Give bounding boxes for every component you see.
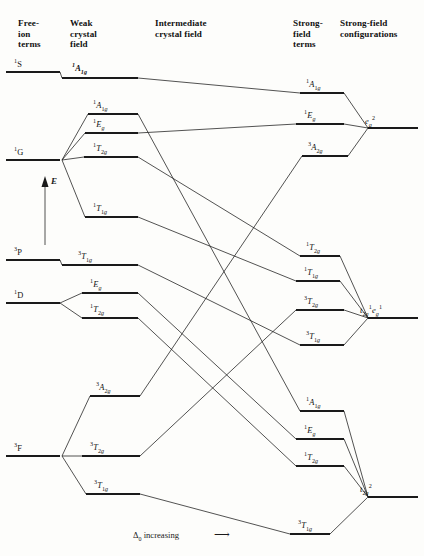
free-ion-label-3F: 3F: [14, 444, 22, 453]
free-ion-label-1S: 1S: [14, 60, 22, 69]
splitting-line-1A1g-from-1G: [62, 114, 88, 160]
correlation-line-3A2g-from-3F-to-3A2g-strong: [140, 156, 302, 396]
weak-field-label-3T2g-from-3F: 3T2g: [90, 443, 104, 452]
strong-field-label-3T2g-strong: 3T2g: [304, 297, 318, 306]
convergence-line-3T1g-strong-low: [330, 497, 368, 534]
weak-field-label-1T2g-from-1G: 1T2g: [93, 144, 107, 153]
weak-field-label-3T1g-from-3F: 3T1g: [94, 481, 108, 490]
weak-field-label-3T1g-from-3P: 3T1g: [78, 252, 92, 261]
weak-field-label-3A2g-from-3F: 3A2g: [96, 383, 111, 392]
splitting-line-1Eg-from-1D: [60, 293, 82, 303]
column-header-free-ion-terms: Free-ionterms: [18, 18, 41, 50]
free-ion-label-1G: 1G: [14, 148, 23, 157]
free-ion-label-1D: 1D: [14, 291, 23, 300]
strong-field-label-1Eg-strong: 1Eg: [304, 111, 316, 120]
strong-field-label-3T1g-strong-mid: 3T1g: [306, 332, 320, 341]
configuration-label-eg2: eg2: [365, 117, 375, 126]
splitting-line-1A1g-from-1S: [60, 72, 62, 78]
energy-axis-arrowhead: [42, 176, 49, 187]
strong-field-label-1T2g-strong: 1T2g: [306, 243, 320, 252]
splitting-line-1Eg-from-1G: [62, 133, 85, 160]
correlation-line-1T1g-from-1G-to-1T1g-strong: [138, 217, 296, 281]
weak-field-label-1Eg-from-1D: 1Eg: [90, 280, 102, 289]
column-header-weak-crystal-field: Weakcrystalfield: [70, 18, 97, 50]
correlation-line-1Eg-from-1G-to-1Eg-strong: [138, 124, 296, 133]
correlation-line-1Eg-from-1D-to-1Eg-strong-low: [138, 293, 296, 439]
splitting-line-1T2g-from-1G: [62, 157, 84, 160]
correlation-line-1A1g-from-1S-to-1A1g-strong: [138, 78, 300, 93]
correlation-line-3T2g-from-3F-to-3T2g-strong: [140, 310, 296, 456]
correlation-line-1T2g-from-1G-to-1T2g-strong: [138, 157, 300, 256]
weak-field-label-1A1g-from-1G: 1A1g: [93, 101, 108, 110]
configuration-label-t2g2: t2g2: [360, 485, 372, 494]
convergence-line-3T1g-strong-mid: [344, 318, 368, 345]
splitting-line-3T1g-from-3F: [62, 456, 86, 494]
convergence-line-3A2g-strong: [348, 128, 368, 156]
splitting-line-1T2g-from-1D: [60, 303, 82, 318]
strong-field-label-3A2g-strong: 3A2g: [308, 143, 323, 152]
strong-field-label-1Eg-strong-low: 1Eg: [304, 426, 316, 435]
correlation-line-1A1g-from-1G-to-1A1g-strong-low: [138, 114, 300, 411]
strong-field-label-1A1g-strong-low: 1A1g: [306, 398, 321, 407]
column-header-intermediate-crystal-field: Intermediatecrystal field: [155, 18, 207, 39]
column-header-strong-field-terms: Strong-fieldterms: [293, 18, 323, 50]
strong-field-label-1T2g-strong-low: 1T2g: [304, 453, 318, 462]
splitting-line-3T1g-from-3P: [60, 260, 62, 265]
weak-field-label-1A1g-from-1S: 1A1g: [72, 64, 87, 73]
column-header-strong-field-configurations: Strong-fieldconfigurations: [340, 18, 397, 39]
energy-axis-label: E: [51, 176, 57, 186]
free-ion-label-3P: 3P: [14, 248, 22, 257]
x-axis-arrow: ⟶: [214, 528, 230, 541]
weak-field-label-1T2g-from-1D: 1T2g: [90, 305, 104, 314]
correlation-diagram: 1S1G3P1D3F1A1g1A1g1Eg1T2g1T1g3T1g1Eg1T2g…: [0, 0, 424, 556]
correlation-line-1T2g-from-1D-to-1T2g-strong-low: [138, 318, 296, 466]
weak-field-label-1T1g-from-1G: 1T1g: [93, 204, 107, 213]
correlation-line-3T1g-from-3P-to-3T1g-strong-mid: [138, 265, 300, 345]
splitting-line-3A2g-from-3F: [62, 396, 90, 456]
strong-field-label-1A1g-strong: 1A1g: [306, 80, 321, 89]
x-axis-label: Δ0 increasing: [133, 530, 179, 540]
weak-field-label-1Eg-from-1G: 1Eg: [93, 120, 105, 129]
configuration-label-t2g1eg1: t2g1eg1: [360, 306, 382, 315]
strong-field-label-1T1g-strong: 1T1g: [304, 268, 318, 277]
strong-field-label-3T1g-strong-low: 3T1g: [298, 521, 312, 530]
splitting-line-1T1g-from-1G: [62, 160, 85, 217]
diagram-canvas: [0, 0, 424, 556]
